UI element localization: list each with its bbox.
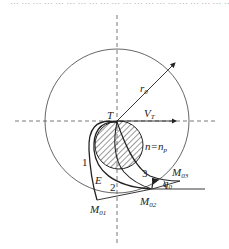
target-point-label: T xyxy=(107,109,114,121)
trajectory-diagram: … … … … … … … … … … … … … … … … … … … … … xyxy=(0,0,229,249)
radius-label: r0 xyxy=(140,82,148,96)
top-text-fragment: … … … … … … … … … … … … … … … … … … … … … xyxy=(10,0,229,6)
curve-1-label: 1 xyxy=(82,156,88,168)
navigation-ratio-label: n=np xyxy=(145,140,167,154)
velocity-label: VT xyxy=(144,107,156,121)
m02-label: M02 xyxy=(139,195,157,209)
m01-label: M01 xyxy=(89,203,106,217)
point-e-label: E xyxy=(94,174,102,186)
curve-2-label: 2 xyxy=(110,181,116,193)
angle-q0-label: q0 xyxy=(163,177,173,191)
curve-3-label: 3 xyxy=(142,167,148,179)
m03-label: M03 xyxy=(171,166,189,180)
